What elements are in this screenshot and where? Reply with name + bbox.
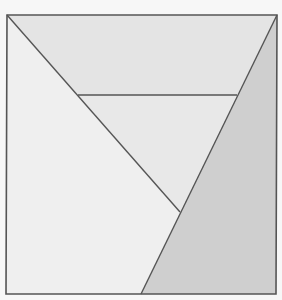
square-dissection-diagram xyxy=(0,0,282,300)
diagram-canvas xyxy=(0,0,282,300)
regions-layer xyxy=(6,15,277,294)
